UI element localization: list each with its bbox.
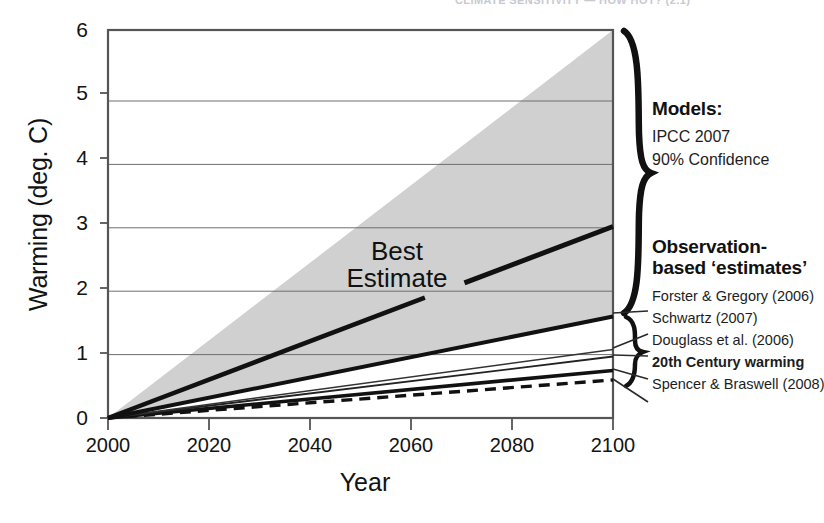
legend-models-heading: Models:	[652, 98, 810, 119]
best-estimate-line-1: Best	[322, 238, 472, 265]
y-tick-label-6: 6	[48, 18, 88, 42]
y-tick-label-1: 1	[48, 341, 88, 365]
legend-observations-heading-line-1: Observation-	[652, 236, 812, 257]
legend-item-forster-gregory: Forster & Gregory (2006)	[652, 285, 812, 307]
y-tick-label-3: 3	[48, 211, 88, 235]
best-estimate-annotation: Best Estimate	[322, 238, 472, 293]
x-tick-label-2100: 2100	[568, 434, 658, 457]
y-tick-label-5: 5	[48, 81, 88, 105]
legend-models-line-1: IPCC 2007	[652, 126, 810, 149]
y-tick-label-2: 2	[48, 276, 88, 300]
x-axis-ticks	[108, 418, 613, 430]
x-tick-label-2020: 2020	[164, 434, 254, 457]
legend-item-douglass: Douglass et al. (2006)	[652, 329, 812, 351]
legend-observations-block: Observation- based ‘estimates’ Forster &…	[652, 236, 812, 395]
y-axis-ticks	[100, 93, 108, 418]
legend-leader-lines	[613, 311, 648, 402]
x-tick-label-2000: 2000	[63, 434, 153, 457]
legend-observations-heading-line-2: based ‘estimates’	[652, 257, 812, 278]
legend-models-line-2: 90% Confidence	[652, 149, 810, 172]
legend-item-20th-century-warming: 20th Century warming	[652, 351, 812, 373]
legend-models-block: Models: IPCC 2007 90% Confidence	[652, 98, 810, 172]
x-tick-label-2080: 2080	[467, 434, 557, 457]
x-tick-label-2060: 2060	[366, 434, 456, 457]
legend-item-spencer-braswell: Spencer & Braswell (2008)	[652, 373, 812, 395]
y-tick-label-0: 0	[48, 406, 88, 430]
brace-models	[624, 31, 651, 313]
best-estimate-line-2: Estimate	[322, 265, 472, 292]
x-axis-title: Year	[250, 468, 480, 497]
x-tick-label-2040: 2040	[265, 434, 355, 457]
y-tick-label-4: 4	[48, 146, 88, 170]
legend-item-schwartz: Schwartz (2007)	[652, 307, 812, 329]
